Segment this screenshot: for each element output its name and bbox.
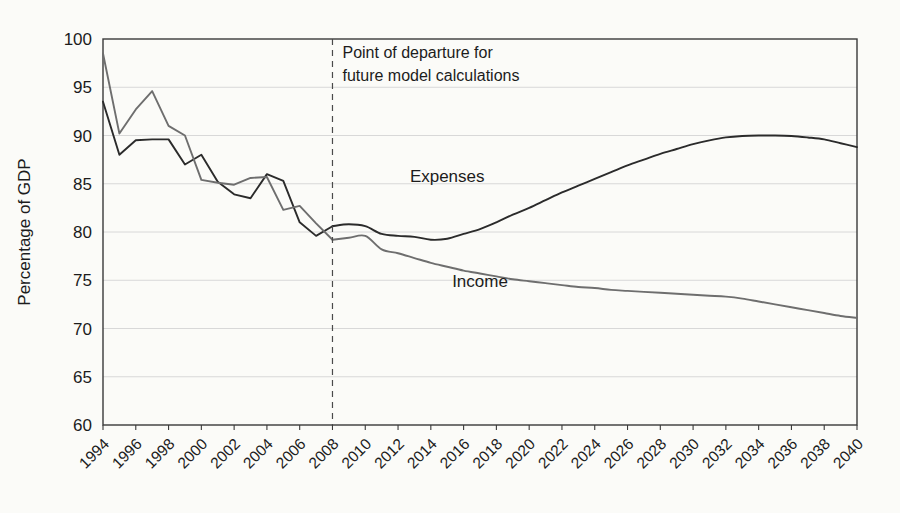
- y-tick-label-95: 95: [73, 78, 92, 97]
- y-tick-label-90: 90: [73, 127, 92, 146]
- departure-annotation-line2: future model calculations: [342, 67, 519, 84]
- y-axis-title: Percentage of GDP: [15, 158, 34, 305]
- income-label: Income: [452, 272, 508, 291]
- y-tick-label-60: 60: [73, 416, 92, 435]
- y-tick-label-65: 65: [73, 368, 92, 387]
- y-tick-label-80: 80: [73, 223, 92, 242]
- expenses-label: Expenses: [410, 167, 485, 186]
- y-tick-label-100: 100: [64, 30, 92, 49]
- chart-container: 1009590858075706560 19941996199820002002…: [0, 0, 900, 513]
- y-axis-label: Percentage of GDP: [15, 158, 34, 305]
- y-tick-label-70: 70: [73, 320, 92, 339]
- departure-annotation-line1: Point of departure for: [342, 44, 493, 61]
- y-tick-label-85: 85: [73, 175, 92, 194]
- gdp-percentage-line-chart: 1009590858075706560 19941996199820002002…: [0, 0, 900, 513]
- y-tick-label-75: 75: [73, 271, 92, 290]
